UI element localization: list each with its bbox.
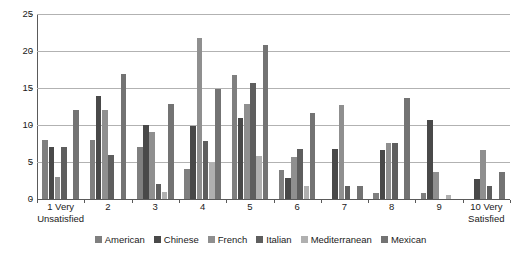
- y-tick-label: 10: [3, 120, 33, 130]
- y-tick-label: 15: [3, 83, 33, 93]
- chart-legend: AmericanChineseFrenchItalianMediterranea…: [0, 235, 521, 245]
- bar: [203, 141, 209, 199]
- bar-group: [179, 14, 226, 199]
- x-tick-label: 4: [179, 201, 226, 213]
- x-tick-label-line1: 4: [200, 201, 205, 212]
- bar: [310, 113, 316, 199]
- legend-label: Mediterranean: [311, 235, 372, 245]
- bar: [291, 157, 297, 199]
- legend-item[interactable]: Mexican: [381, 235, 426, 245]
- bar: [137, 147, 143, 199]
- bar-group: [274, 14, 321, 199]
- bar: [244, 104, 250, 199]
- bar: [279, 170, 285, 199]
- x-tick-label: 7: [321, 201, 368, 213]
- bar: [55, 177, 61, 199]
- x-tick-label-line1: 3: [153, 201, 158, 212]
- x-tick-label-line1: 9: [436, 201, 441, 212]
- legend-swatch-icon: [95, 236, 102, 243]
- bar: [487, 186, 493, 199]
- bar-chart: 0510152025 1 VeryUnsatisfied2345678910 V…: [0, 0, 521, 259]
- x-tick-label-line2: Unsatisfied: [37, 213, 84, 225]
- x-tick-label: 8: [368, 201, 415, 213]
- y-tick-mark: [30, 14, 33, 15]
- bar: [345, 186, 351, 199]
- bar: [499, 172, 505, 199]
- bar: [474, 179, 480, 199]
- bar: [250, 83, 256, 199]
- x-tick-label-line1: 8: [389, 201, 394, 212]
- bar: [102, 110, 108, 199]
- bars-layer: [37, 14, 510, 199]
- bar: [108, 155, 114, 199]
- legend-label: Italian: [266, 235, 291, 245]
- bar: [42, 140, 48, 199]
- bar: [190, 126, 196, 199]
- bar-group: [321, 14, 368, 199]
- legend-swatch-icon: [301, 236, 308, 243]
- bar: [149, 132, 155, 199]
- bar: [184, 169, 190, 199]
- legend-item[interactable]: Mediterranean: [301, 235, 372, 245]
- bar: [421, 193, 427, 199]
- legend-item[interactable]: American: [95, 235, 145, 245]
- y-tick-label: 25: [3, 9, 33, 19]
- x-tick-label: 1 VeryUnsatisfied: [37, 201, 84, 225]
- x-tick-label: 3: [132, 201, 179, 213]
- x-tick-label: 5: [226, 201, 273, 213]
- y-axis-ticks: 0510152025: [0, 14, 33, 200]
- bar: [480, 150, 486, 199]
- bar: [96, 96, 102, 199]
- bar: [446, 195, 452, 199]
- bar-group: [415, 14, 462, 199]
- bar: [256, 156, 262, 199]
- bar-group: [463, 14, 510, 199]
- x-tick-label-line1: 2: [105, 201, 110, 212]
- legend-item[interactable]: Chinese: [154, 235, 199, 245]
- bar-group: [132, 14, 179, 199]
- legend-item[interactable]: Italian: [256, 235, 291, 245]
- bar: [304, 186, 310, 199]
- x-tick-label: 2: [84, 201, 131, 213]
- bar: [285, 178, 291, 199]
- y-tick-mark: [30, 125, 33, 126]
- bar: [433, 172, 439, 199]
- bar: [238, 118, 244, 199]
- y-tick-mark: [30, 88, 33, 89]
- x-tick-label: 10 VerySatisfied: [463, 201, 510, 225]
- bar-group: [37, 14, 84, 199]
- bar: [197, 38, 203, 199]
- bar: [380, 150, 386, 199]
- y-tick-mark: [30, 199, 33, 200]
- legend-swatch-icon: [256, 236, 263, 243]
- x-tick-label: 6: [274, 201, 321, 213]
- x-tick-label-line1: 7: [342, 201, 347, 212]
- y-tick-label: 20: [3, 46, 33, 56]
- bar: [392, 143, 398, 199]
- legend-label: French: [218, 235, 248, 245]
- legend-item[interactable]: French: [208, 235, 248, 245]
- bar: [373, 193, 379, 199]
- x-tick-label-line1: 1 Very: [47, 201, 74, 212]
- bar: [357, 186, 363, 199]
- bar: [121, 74, 127, 199]
- legend-swatch-icon: [381, 236, 388, 243]
- bar: [61, 147, 67, 199]
- y-tick-mark: [30, 162, 33, 163]
- bar-group: [84, 14, 131, 199]
- bar: [143, 125, 149, 199]
- y-tick-label: 5: [3, 157, 33, 167]
- bar: [156, 184, 162, 199]
- legend-label: Mexican: [391, 235, 426, 245]
- bar: [339, 105, 345, 199]
- x-tick-label-line1: 5: [247, 201, 252, 212]
- bar: [215, 89, 221, 199]
- bar: [297, 149, 303, 199]
- x-tick-label: 9: [415, 201, 462, 213]
- legend-swatch-icon: [154, 236, 161, 243]
- bar: [168, 104, 174, 199]
- bar: [332, 149, 338, 199]
- legend-swatch-icon: [208, 236, 215, 243]
- bar-group: [226, 14, 273, 199]
- plot-area: [37, 14, 510, 199]
